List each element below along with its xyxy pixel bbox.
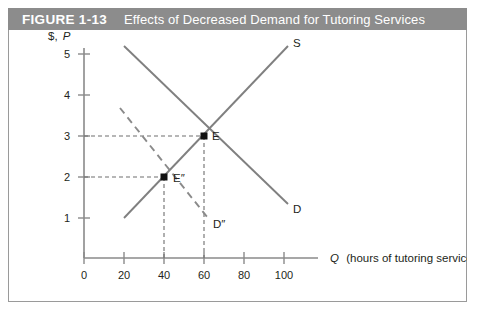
x-tick-label-40: 40 bbox=[158, 269, 170, 281]
y-axis-tick-labels: 5 4 3 2 1 bbox=[64, 48, 70, 224]
figure-container: FIGURE 1-13 Effects of Decreased Demand … bbox=[0, 0, 485, 319]
y-tick-label-4: 4 bbox=[64, 89, 70, 101]
y-tick-label-1: 1 bbox=[64, 212, 70, 224]
y-axis-title-currency: $, bbox=[48, 30, 58, 42]
y-axis-title-variable: P bbox=[63, 30, 71, 42]
point-labels: E E″ bbox=[173, 130, 220, 184]
y-axis-title: $, P bbox=[48, 30, 71, 42]
axes bbox=[84, 48, 318, 258]
economics-supply-demand-chart: 5 4 3 2 1 0 20 40 60 80 bbox=[8, 30, 467, 302]
x-axis-title-variable: Q bbox=[330, 252, 339, 264]
point-label-E: E bbox=[212, 130, 220, 142]
demand-curve bbox=[124, 46, 288, 204]
curve-labels: S D D″ bbox=[213, 37, 301, 230]
x-axis-tick-labels: 0 20 40 60 80 100 bbox=[81, 269, 293, 281]
figure-title: Effects of Decreased Demand for Tutoring… bbox=[124, 12, 425, 27]
x-tick-label-100: 100 bbox=[275, 269, 293, 281]
point-E-double-prime bbox=[161, 174, 168, 181]
y-tick-label-2: 2 bbox=[64, 171, 70, 183]
x-tick-label-80: 80 bbox=[238, 269, 250, 281]
demand-curve-label: D bbox=[293, 203, 301, 215]
x-tick-label-20: 20 bbox=[118, 269, 130, 281]
supply-curve-label: S bbox=[293, 37, 301, 49]
supply-curve bbox=[124, 46, 288, 218]
figure-header-bar: FIGURE 1-13 Effects of Decreased Demand … bbox=[8, 8, 467, 30]
x-axis-title-description: (hours of tutoring services) bbox=[346, 252, 467, 264]
x-tick-label-60: 60 bbox=[198, 269, 210, 281]
new-demand-curve-label: D″ bbox=[213, 218, 225, 230]
axis-titles: $, P Q (hours of tutoring services) bbox=[48, 30, 467, 264]
x-tick-label-0: 0 bbox=[81, 269, 87, 281]
point-label-E-double-prime: E″ bbox=[173, 172, 185, 184]
figure-number: FIGURE 1-13 bbox=[22, 12, 107, 27]
chart-plot-area: 5 4 3 2 1 0 20 40 60 80 bbox=[8, 30, 467, 302]
y-tick-label-3: 3 bbox=[64, 130, 70, 142]
y-tick-label-5: 5 bbox=[64, 48, 70, 60]
point-E bbox=[201, 133, 208, 140]
x-axis-title: Q (hours of tutoring services) bbox=[330, 252, 467, 264]
